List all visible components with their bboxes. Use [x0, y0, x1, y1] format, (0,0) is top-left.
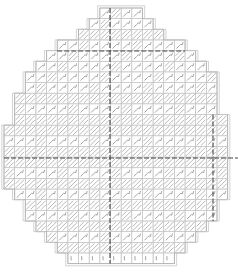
grid-cell: [68, 253, 79, 264]
grid-cell: [89, 253, 100, 264]
stitch-chart: [0, 0, 238, 273]
grid-cell: [164, 253, 175, 264]
stitch-marks: [5, 9, 227, 260]
grid-cell: [132, 253, 143, 264]
grid-cell: [100, 253, 111, 264]
grid-cell: [79, 253, 90, 264]
grid-cell: [142, 253, 153, 264]
grid-cell: [121, 253, 132, 264]
grid-cell: [153, 253, 164, 264]
grid-cell: [111, 253, 122, 264]
